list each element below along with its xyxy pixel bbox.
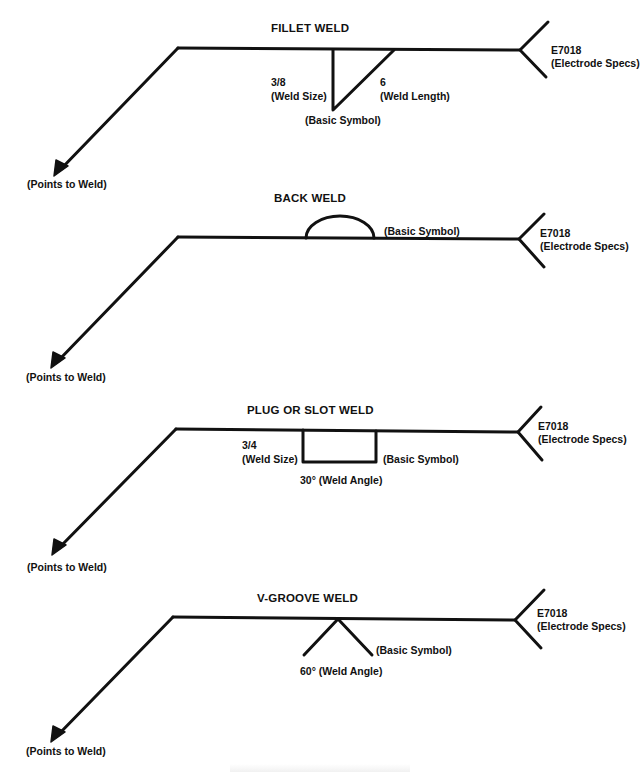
leader-arrow [58, 429, 176, 549]
tail-icon [520, 22, 548, 77]
fillet-electrode-code: E7018 [551, 44, 581, 57]
back-weld-symbol [51, 214, 544, 368]
plug-angle-label: 30° (Weld Angle) [300, 474, 382, 487]
fillet-length-value: 6 [380, 76, 386, 89]
leader-arrow [60, 48, 178, 170]
plug-size-label: (Weld Size) [242, 453, 298, 466]
fillet-length-label: (Weld Length) [380, 90, 450, 103]
cropped-caption [230, 764, 410, 772]
plug-symbol-label: (Basic Symbol) [383, 453, 459, 466]
back-weld-semicircle-icon [306, 216, 374, 238]
plug-electrode-code: E7018 [538, 420, 568, 433]
v-groove-weld-symbol [51, 590, 544, 742]
v-angle-label: 60° (Weld Angle) [300, 665, 382, 678]
back-arrow-label: (Points to Weld) [26, 371, 106, 384]
v-electrode-desc: (Electrode Specs) [537, 620, 626, 633]
plug-rectangle-icon [303, 430, 376, 462]
back-symbol-label: (Basic Symbol) [384, 225, 460, 238]
fillet-weld-title: FILLET WELD [271, 22, 349, 35]
fillet-arrow-label: (Points to Weld) [27, 178, 107, 191]
plug-weld-title: PLUG OR SLOT WELD [247, 404, 374, 417]
plug-size-value: 3/4 [242, 439, 257, 452]
back-weld-title: BACK WELD [274, 192, 346, 205]
plug-weld-symbol [52, 407, 542, 555]
back-electrode-code: E7018 [540, 227, 570, 240]
v-groove-icon [304, 619, 372, 655]
reference-line [178, 237, 519, 239]
reference-line [178, 48, 520, 50]
reference-line [173, 617, 515, 620]
plug-arrow-label: (Points to Weld) [27, 561, 107, 574]
v-groove-weld-title: V-GROOVE WELD [257, 592, 358, 605]
plug-electrode-desc: (Electrode Specs) [538, 433, 627, 446]
reference-line [176, 429, 518, 432]
fillet-electrode-desc: (Electrode Specs) [551, 57, 640, 70]
v-arrow-label: (Points to Weld) [26, 745, 106, 758]
fillet-size-value: 3/8 [271, 76, 286, 89]
leader-arrow [57, 237, 178, 362]
fillet-size-label: (Weld Size) [271, 90, 327, 103]
v-electrode-code: E7018 [537, 607, 567, 620]
back-electrode-desc: (Electrode Specs) [540, 240, 629, 253]
v-symbol-label: (Basic Symbol) [376, 644, 452, 657]
fillet-symbol-label: (Basic Symbol) [305, 114, 381, 127]
leader-arrow [57, 617, 173, 736]
